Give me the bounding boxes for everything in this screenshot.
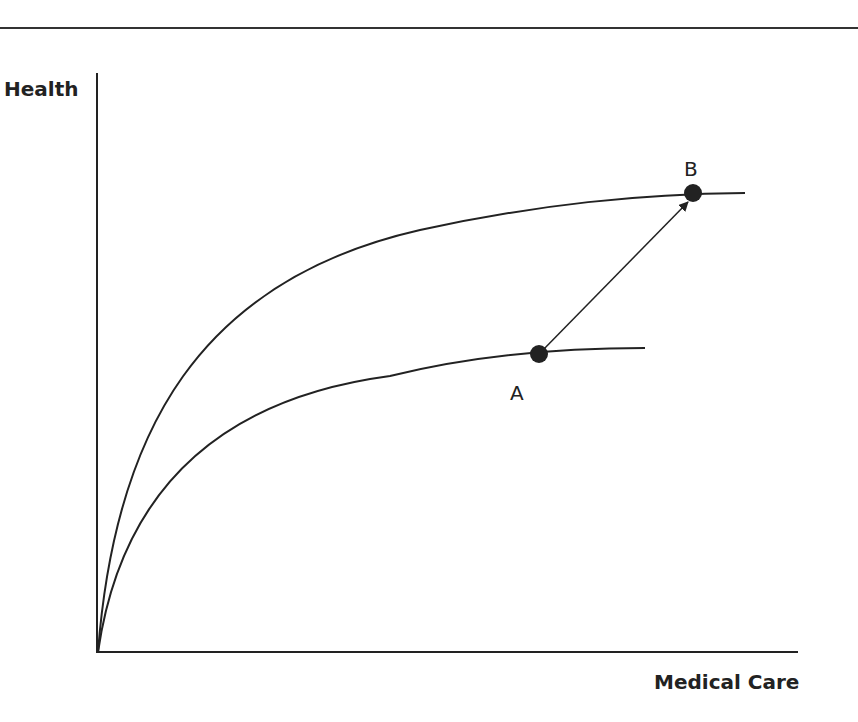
shift-arrow — [541, 202, 688, 352]
diagram-canvas — [0, 0, 858, 722]
point-a — [530, 345, 548, 363]
upper-curve — [98, 193, 745, 652]
lower-curve — [98, 348, 645, 652]
point-b-label: B — [684, 157, 698, 181]
point-a-label: A — [510, 381, 524, 405]
point-b — [684, 184, 702, 202]
